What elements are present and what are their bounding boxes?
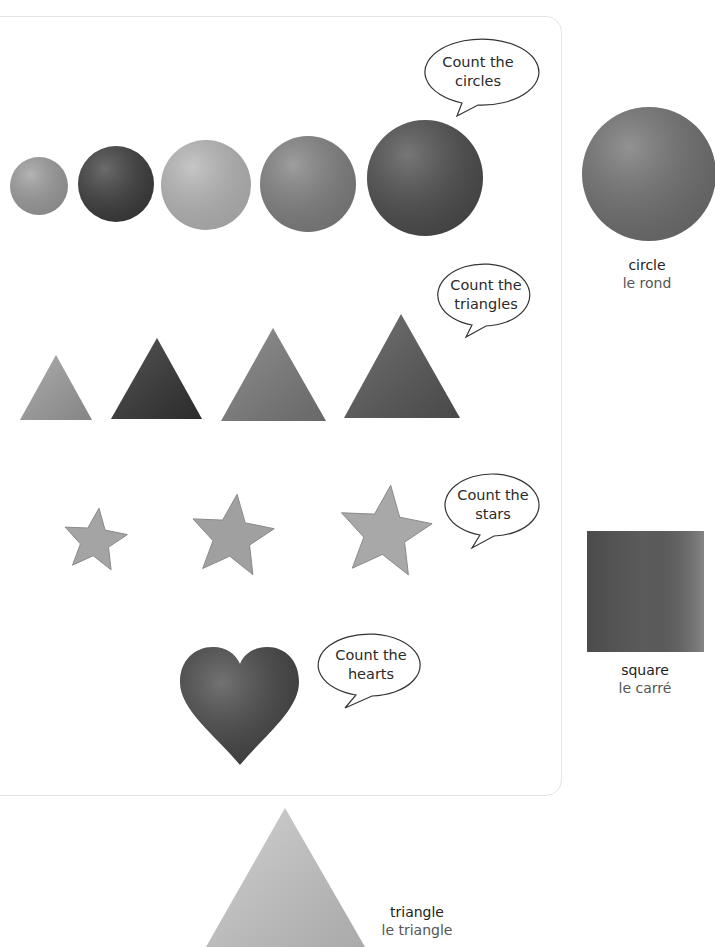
speech-bubble-stars: Count the stars [445, 474, 539, 548]
bubble-line: triangles [454, 296, 517, 312]
star-shape [193, 494, 274, 574]
bubble-line: Count the [442, 54, 514, 70]
vocab-triangle: triangle le triangle [206, 808, 452, 947]
speech-bubble-hearts: Count the hearts [318, 634, 420, 708]
vocab-square: square le carré [587, 531, 704, 696]
label-english: square [621, 662, 669, 678]
triangles-row [20, 314, 460, 421]
vocab-circle: circle le rond [582, 107, 715, 291]
label-french: le rond [623, 275, 672, 291]
label-english: triangle [390, 904, 444, 920]
label-english: circle [628, 257, 665, 273]
page-canvas: Count the circles Count the triangles Co… [0, 0, 715, 947]
bubble-line: circles [455, 73, 501, 89]
star-shape [342, 485, 433, 575]
speech-bubble-circles: Count the circles [425, 39, 539, 116]
hearts-row [180, 647, 299, 765]
label-french: le carré [619, 680, 672, 696]
circles-row [10, 120, 483, 236]
bubble-line: stars [475, 506, 511, 522]
label-french: le triangle [382, 922, 453, 938]
bubble-line: Count the [335, 647, 407, 663]
speech-bubble-triangles: Count the triangles [438, 264, 530, 337]
bubble-line: hearts [348, 666, 394, 682]
bubble-line: Count the [450, 277, 522, 293]
stars-row [65, 485, 432, 575]
bubble-line: Count the [457, 487, 529, 503]
star-shape [65, 508, 127, 570]
